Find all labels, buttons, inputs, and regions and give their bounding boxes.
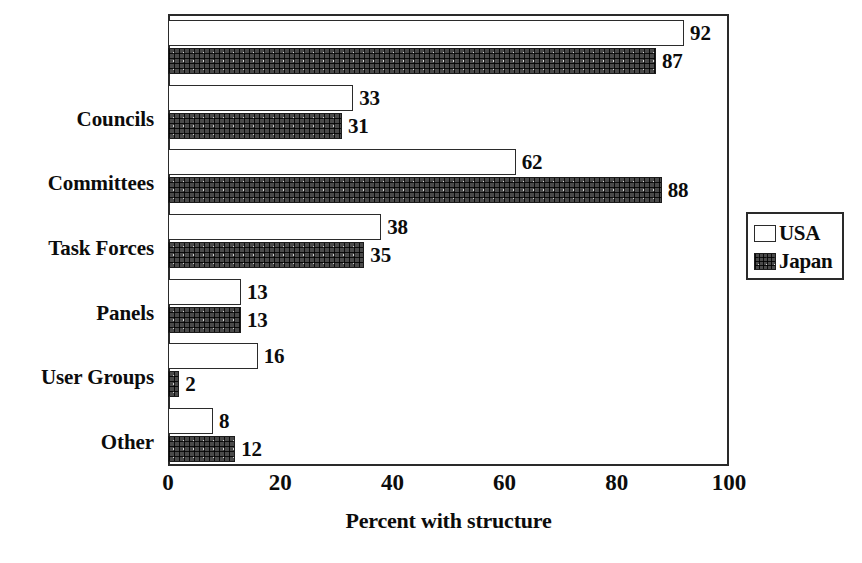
x-axis-tick-label: 40 [381, 470, 404, 496]
category-axis-labels: CouncilsCommitteesTask ForcesPanelsUser … [0, 14, 162, 466]
x-axis-tick-label: 80 [605, 470, 628, 496]
bar-japan [168, 177, 662, 203]
bar-value-label-usa: 33 [359, 85, 380, 111]
x-axis-tick-label: 60 [493, 470, 516, 496]
bar-value-label-usa: 92 [690, 20, 711, 46]
bar-value-label-japan: 12 [241, 436, 262, 462]
bar-value-label-usa: 16 [264, 343, 285, 369]
bar-value-label-japan: 88 [668, 177, 689, 203]
category-label: Panels [0, 301, 162, 326]
bar-value-label-japan: 31 [348, 113, 369, 139]
bar-value-label-japan: 35 [370, 242, 391, 268]
bar-usa [168, 408, 213, 434]
legend-label: USA [779, 223, 820, 244]
category-label: Task Forces [0, 236, 162, 261]
bar-japan [168, 436, 235, 462]
bar-japan [168, 242, 364, 268]
chart-legend: USAJapan [746, 212, 844, 280]
x-axis-ticks: 020406080100 [168, 470, 729, 504]
category-label: Committees [0, 171, 162, 196]
bar-japan [168, 113, 342, 139]
bar-usa [168, 343, 258, 369]
category-label: Councils [0, 107, 162, 132]
legend-item: Japan [754, 247, 838, 275]
bar-value-label-usa: 13 [247, 279, 268, 305]
legend-swatch-japan [754, 253, 776, 270]
bar-value-label-japan: 2 [185, 371, 195, 397]
x-axis-tick-label: 0 [162, 470, 174, 496]
category-label: User Groups [0, 365, 162, 390]
x-axis-tick-label: 100 [712, 470, 747, 496]
legend-swatch-usa [754, 225, 776, 242]
bar-japan [168, 371, 179, 397]
bars-layer: 92873331628838351313162812 [168, 14, 729, 466]
legend-label: Japan [779, 251, 832, 272]
bar-usa [168, 85, 353, 111]
bar-usa [168, 214, 381, 240]
category-label: Other [0, 430, 162, 455]
bar-value-label-japan: 13 [247, 307, 268, 333]
x-axis-tick-label: 20 [269, 470, 292, 496]
bar-usa [168, 20, 684, 46]
bar-value-label-usa: 62 [522, 149, 543, 175]
bar-usa [168, 149, 516, 175]
bar-value-label-usa: 38 [387, 214, 408, 240]
bar-usa [168, 279, 241, 305]
legend-item: USA [754, 219, 838, 247]
bar-value-label-usa: 8 [219, 408, 229, 434]
x-axis-title: Percent with structure [168, 508, 729, 534]
bar-value-label-japan: 87 [662, 48, 683, 74]
bar-chart: CouncilsCommitteesTask ForcesPanelsUser … [0, 0, 862, 563]
bar-japan [168, 307, 241, 333]
bar-japan [168, 48, 656, 74]
